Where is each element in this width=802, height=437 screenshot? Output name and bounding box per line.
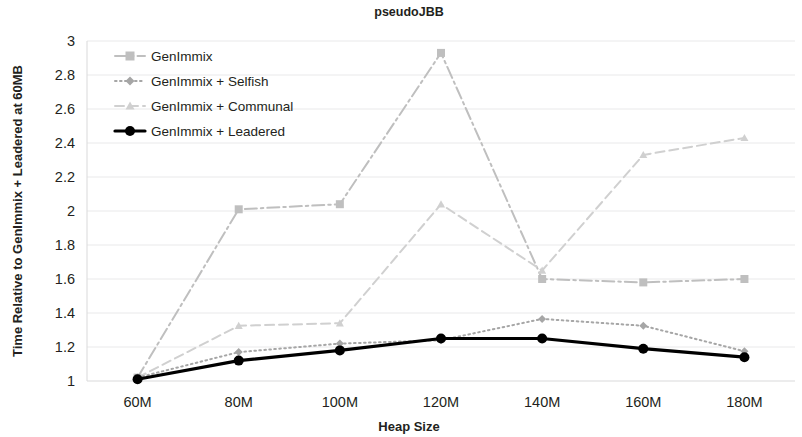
x-tick-label: 60M <box>123 394 151 410</box>
y-tick-label: 3 <box>67 33 75 49</box>
data-point-marker <box>437 49 445 57</box>
y-tick-label: 1.2 <box>55 339 75 355</box>
y-tick-label: 2.4 <box>55 135 75 151</box>
data-point-marker <box>739 352 749 362</box>
data-point-marker <box>638 344 648 354</box>
data-point-marker <box>336 200 344 208</box>
legend-label: GenImmix <box>151 49 213 64</box>
x-tick-label: 160M <box>625 394 661 410</box>
legend-label: GenImmix + Selfish <box>151 74 268 89</box>
y-tick-label: 2.8 <box>55 67 75 83</box>
data-point-marker <box>133 374 143 384</box>
y-tick-label: 1 <box>67 373 75 389</box>
y-tick-label: 2 <box>67 203 75 219</box>
x-tick-label: 140M <box>524 394 560 410</box>
data-point-marker <box>740 275 748 283</box>
legend-label: GenImmix + Leadered <box>151 124 285 139</box>
x-axis-title: Heap Size <box>378 419 439 434</box>
x-tick-label: 120M <box>423 394 459 410</box>
chart-background <box>0 0 802 437</box>
data-point-marker <box>538 275 546 283</box>
x-tick-label: 80M <box>225 394 253 410</box>
data-point-marker <box>436 334 446 344</box>
data-point-marker <box>537 334 547 344</box>
y-axis-title: Time Relative to GenImmix + Leadered at … <box>10 65 25 357</box>
data-point-marker <box>125 126 135 136</box>
y-tick-label: 1.6 <box>55 271 75 287</box>
y-tick-label: 1.8 <box>55 237 75 253</box>
legend-label: GenImmix + Communal <box>151 99 293 114</box>
x-tick-label: 100M <box>322 394 358 410</box>
data-point-marker <box>234 356 244 366</box>
chart-container: pseudoJBB 32.82.62.42.221.81.61.41.21 60… <box>0 0 802 437</box>
x-tick-label: 180M <box>726 394 762 410</box>
data-point-marker <box>126 52 135 61</box>
y-tick-label: 1.4 <box>55 305 75 321</box>
y-tick-label: 2.6 <box>55 101 75 117</box>
pseudojbb-line-chart: pseudoJBB 32.82.62.42.221.81.61.41.21 60… <box>0 0 802 437</box>
chart-title: pseudoJBB <box>374 5 443 19</box>
data-point-marker <box>335 345 345 355</box>
y-tick-label: 2.2 <box>55 169 75 185</box>
data-point-marker <box>235 205 243 213</box>
data-point-marker <box>639 278 647 286</box>
